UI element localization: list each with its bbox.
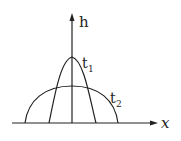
y-axis <box>70 13 75 123</box>
label-t1: t 1 <box>82 55 94 74</box>
diagram-canvas: h x t 1 t 2 <box>0 0 181 141</box>
svg-text:1: 1 <box>88 64 94 74</box>
h-axis-label: h <box>79 13 89 31</box>
y-axis-arrow-icon <box>70 13 75 21</box>
svg-text:2: 2 <box>116 99 122 109</box>
x-axis <box>12 121 158 126</box>
label-t2: t 2 <box>110 90 122 109</box>
x-axis-arrow-icon <box>150 121 158 126</box>
x-axis-label: x <box>161 114 170 132</box>
